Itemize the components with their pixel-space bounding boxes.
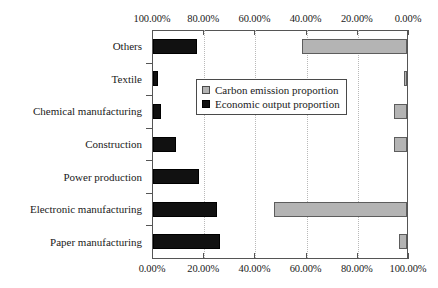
bottom-axis-tick — [152, 253, 153, 258]
category-axis-tick — [146, 128, 152, 129]
top-axis-tick — [203, 30, 204, 35]
top-axis-tick-label: 60.00% — [239, 12, 271, 26]
bar-economic-output — [153, 71, 158, 86]
gridline — [307, 30, 308, 258]
bar-carbon-emission — [399, 234, 407, 249]
top-axis-tick-label: 40.00% — [290, 12, 322, 26]
chart-legend: Carbon emission proportion Economic outp… — [196, 79, 347, 115]
bottom-axis-tick-label: 80.00% — [341, 262, 373, 276]
category-label: Construction — [85, 138, 142, 150]
bottom-axis-tick-label: 100.00% — [390, 262, 427, 276]
legend-item-economic: Economic output proportion — [202, 97, 340, 111]
bottom-axis-tick — [306, 253, 307, 258]
bottom-axis-tick — [203, 253, 204, 258]
bar-carbon-emission — [302, 39, 407, 54]
top-axis-tick — [254, 30, 255, 35]
bar-economic-output — [153, 169, 199, 184]
bottom-axis-tick-labels: 0.00%20.00%40.00%60.00%80.00%100.00% — [152, 262, 408, 276]
bottom-axis-tick-label: 40.00% — [239, 262, 271, 276]
category-label: Textile — [112, 73, 142, 85]
plot-area — [152, 30, 408, 258]
bottom-axis-tick-label: 0.00% — [139, 262, 166, 276]
bar-economic-output — [153, 137, 176, 152]
economic-swatch-icon — [202, 100, 210, 108]
top-axis-tick-label: 20.00% — [341, 12, 373, 26]
top-axis-tick-label: 0.00% — [395, 12, 422, 26]
category-axis-tick — [146, 160, 152, 161]
category-label: Paper manufacturing — [50, 236, 142, 248]
plot-bottom-axis-line — [152, 258, 409, 259]
gridline — [255, 30, 256, 258]
category-axis-tick — [146, 193, 152, 194]
bar-economic-output — [153, 39, 197, 54]
top-axis-tick-label: 80.00% — [187, 12, 219, 26]
top-axis-tick-labels: 100.00%80.00%60.00%40.00%20.00%0.00% — [152, 12, 408, 26]
category-label: Chemical manufacturing — [33, 105, 142, 117]
category-label: Power production — [63, 171, 142, 183]
top-axis-tick — [357, 30, 358, 35]
bottom-axis-tick — [254, 253, 255, 258]
bar-economic-output — [153, 202, 217, 217]
top-axis-tick — [152, 30, 153, 35]
gridline — [358, 30, 359, 258]
bottom-axis-tick-label: 20.00% — [187, 262, 219, 276]
category-axis-tick — [146, 63, 152, 64]
bar-economic-output — [153, 104, 161, 119]
top-axis-tick — [408, 30, 409, 35]
top-axis-tick-label: 100.00% — [134, 12, 171, 26]
legend-label-carbon: Carbon emission proportion — [215, 83, 338, 97]
legend-item-carbon: Carbon emission proportion — [202, 83, 340, 97]
bar-carbon-emission — [394, 137, 407, 152]
category-axis-tick — [146, 225, 152, 226]
bidirectional-bar-chart: 100.00%80.00%60.00%40.00%20.00%0.00% 0.0… — [0, 0, 438, 288]
bar-carbon-emission — [274, 202, 407, 217]
bottom-axis-tick — [357, 253, 358, 258]
carbon-swatch-icon — [202, 86, 210, 94]
category-label: Others — [113, 40, 142, 52]
top-axis-tick — [306, 30, 307, 35]
bar-economic-output — [153, 234, 220, 249]
category-axis-tick — [146, 95, 152, 96]
legend-label-economic: Economic output proportion — [215, 97, 340, 111]
bottom-axis-tick-label: 60.00% — [290, 262, 322, 276]
bar-carbon-emission — [404, 71, 407, 86]
bottom-axis-tick — [408, 253, 409, 258]
gridline — [204, 30, 205, 258]
category-label: Electronic manufacturing — [30, 203, 142, 215]
bar-carbon-emission — [394, 104, 407, 119]
